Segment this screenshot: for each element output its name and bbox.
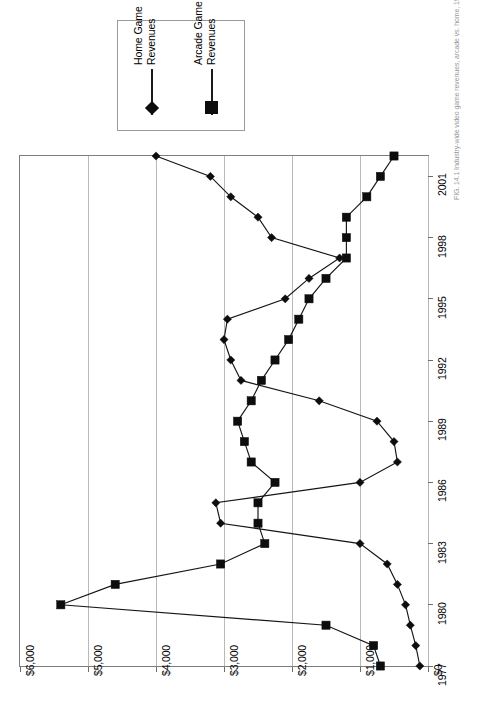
data-point-square-marker <box>376 662 384 670</box>
data-point-square-marker <box>240 438 248 446</box>
data-point-square-marker <box>247 458 255 466</box>
data-point-diamond-marker <box>227 356 235 364</box>
year-axis-label: 1977 <box>436 646 448 686</box>
year-axis-tick <box>428 666 433 667</box>
data-point-diamond-marker <box>220 336 228 344</box>
data-point-square-marker <box>254 519 262 527</box>
plot-area: $6,000$5,000$4,000$3,000$2,000$1,000$0 2… <box>19 155 429 667</box>
series-line <box>156 156 420 666</box>
data-point-square-marker <box>363 193 371 201</box>
data-point-diamond-marker <box>393 580 401 588</box>
data-point-diamond-marker <box>152 152 160 160</box>
year-axis-tick <box>428 482 433 483</box>
data-point-square-marker <box>342 254 350 262</box>
data-point-square-marker <box>342 234 350 242</box>
diamond-marker-icon <box>145 101 159 115</box>
data-point-square-marker <box>261 540 269 548</box>
year-axis-tick <box>428 176 433 177</box>
legend-entry-home-game-revenues: Home Game Revenues <box>132 21 192 130</box>
data-point-diamond-marker <box>237 376 245 384</box>
value-axis-tick <box>88 667 89 672</box>
chart-legend: Home Game Revenues Arcade Game Revenues <box>117 20 245 131</box>
series-line <box>61 156 394 666</box>
year-axis-tick <box>428 421 433 422</box>
year-axis-label: 1980 <box>436 585 448 625</box>
data-point-square-marker <box>342 213 350 221</box>
data-point-diamond-marker <box>268 234 276 242</box>
data-point-square-marker <box>271 478 279 486</box>
year-axis-label: 1989 <box>436 401 448 441</box>
data-point-square-marker <box>271 356 279 364</box>
year-axis-label: 2001 <box>436 156 448 196</box>
year-axis-label: 1992 <box>436 340 448 380</box>
data-point-square-marker <box>295 315 303 323</box>
legend-label: Home Game Revenues <box>132 0 170 65</box>
legend-entry-arcade-game-revenues: Arcade Game Revenues <box>192 21 252 130</box>
data-point-diamond-marker <box>412 642 420 650</box>
data-point-square-marker <box>305 295 313 303</box>
data-point-square-marker <box>234 417 242 425</box>
year-axis-label: 1983 <box>436 524 448 564</box>
data-point-diamond-marker <box>401 601 409 609</box>
data-point-square-marker <box>376 172 384 180</box>
data-point-diamond-marker <box>212 499 220 507</box>
data-point-square-marker <box>254 499 262 507</box>
year-axis-tick <box>428 237 433 238</box>
data-point-square-marker <box>111 580 119 588</box>
figure-caption: FIG. 14.1 Industry-wide video game reven… <box>452 0 466 200</box>
value-axis-tick <box>428 667 429 672</box>
data-point-diamond-marker <box>217 519 225 527</box>
data-point-square-marker <box>390 152 398 160</box>
value-axis-tick <box>20 667 21 672</box>
year-axis-tick <box>428 604 433 605</box>
data-point-square-marker <box>285 336 293 344</box>
value-axis-tick <box>292 667 293 672</box>
data-point-diamond-marker <box>416 662 424 670</box>
data-point-square-marker <box>322 274 330 282</box>
year-axis-label: 1998 <box>436 218 448 258</box>
data-point-diamond-marker <box>393 458 401 466</box>
data-point-square-marker <box>247 397 255 405</box>
year-axis-tick <box>428 298 433 299</box>
year-axis-label: 1986 <box>436 462 448 502</box>
data-point-square-marker <box>57 601 65 609</box>
data-series-layer <box>20 156 428 666</box>
data-point-square-marker <box>257 376 265 384</box>
value-axis-tick <box>156 667 157 672</box>
data-point-square-marker <box>322 621 330 629</box>
value-axis-tick <box>224 667 225 672</box>
legend-label: Arcade Game Revenues <box>192 0 230 65</box>
data-point-diamond-marker <box>356 478 364 486</box>
data-point-square-marker <box>217 560 225 568</box>
value-axis-tick <box>360 667 361 672</box>
data-point-diamond-marker <box>315 397 323 405</box>
year-axis-tick <box>428 360 433 361</box>
chart-figure: Home Game Revenues Arcade Game Revenues … <box>0 0 477 719</box>
data-point-diamond-marker <box>223 315 231 323</box>
series-home-game-revenues <box>152 152 424 670</box>
data-point-square-marker <box>370 642 378 650</box>
data-point-diamond-marker <box>406 621 414 629</box>
year-axis-label: 1995 <box>436 279 448 319</box>
square-marker-icon <box>205 101 218 114</box>
year-axis-tick <box>428 543 433 544</box>
